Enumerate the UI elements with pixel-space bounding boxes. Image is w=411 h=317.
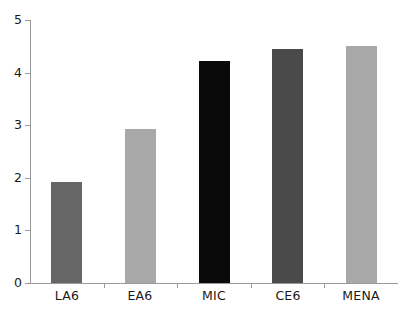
y-tick-label-4: 4 [0,67,22,80]
x-axis-line [30,283,398,284]
y-tick-mark-2 [25,178,30,179]
bar-mena [346,46,377,283]
y-axis-line [30,20,31,283]
y-tick-mark-1 [25,230,30,231]
bar-ce6 [272,49,303,283]
bar-la6 [51,182,82,283]
bar-chart: 012345 LA6EA6MICCE6MENA [0,0,411,317]
y-tick-mark-0 [25,283,30,284]
y-tick-label-3: 3 [0,119,22,132]
x-tick-mark-4 [324,283,325,288]
x-tick-mark-3 [251,283,252,288]
y-tick-label-5: 5 [0,14,22,27]
x-tick-label-mena: MENA [316,290,406,303]
y-tick-mark-5 [25,20,30,21]
y-tick-mark-3 [25,125,30,126]
y-tick-label-1: 1 [0,224,22,237]
y-tick-label-2: 2 [0,172,22,185]
y-tick-mark-4 [25,73,30,74]
x-tick-mark-2 [177,283,178,288]
bar-mic [199,61,230,283]
bar-ea6 [125,129,156,283]
y-tick-label-0: 0 [0,277,22,290]
x-tick-mark-1 [104,283,105,288]
